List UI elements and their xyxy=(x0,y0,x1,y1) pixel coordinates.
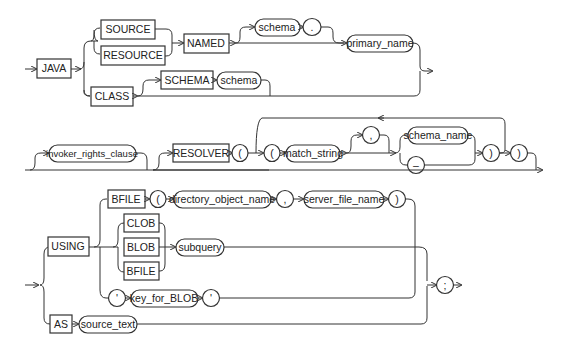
symbol-dash-label: – xyxy=(413,159,419,171)
symbol-lparen-inner-label: ( xyxy=(270,147,274,159)
row-2: invoker_rights_clause RESOLVER ( ( match… xyxy=(25,118,542,174)
symbol-rparen-bfile-label: ) xyxy=(395,193,399,205)
keyword-clob-label: CLOB xyxy=(127,217,156,229)
keyword-source-label: SOURCE xyxy=(106,23,151,35)
symbol-lparen-outer-label: ( xyxy=(238,147,242,159)
symbol-semicolon-label: ; xyxy=(444,279,447,291)
keyword-class-label: CLASS xyxy=(95,90,129,102)
symbol-dot-label: . xyxy=(311,21,314,33)
railroad-diagram: JAVA SOURCE RESOURCE NAMED schema . xyxy=(0,0,571,353)
symbol-rparen-inner-label: ) xyxy=(489,147,493,159)
nonterminal-match-string-label: match_string xyxy=(283,147,343,159)
nonterminal-schema-label: schema xyxy=(259,21,296,33)
nonterminal-schema-name-label: schema_name xyxy=(404,129,473,141)
nonterminal-key-for-blob-label: key_for_BLOB xyxy=(130,292,198,304)
nonterminal-directory-object-name-label: directory_object_name xyxy=(169,193,275,205)
nonterminal-schema-class-label: schema xyxy=(221,74,258,86)
keyword-named-label: NAMED xyxy=(187,37,225,49)
keyword-resolver-label: RESOLVER xyxy=(173,147,230,159)
keyword-bfile-label: BFILE xyxy=(111,193,140,205)
keyword-using-label: USING xyxy=(51,240,84,252)
symbol-comma-bfile-label: , xyxy=(284,193,287,205)
keyword-as-label: AS xyxy=(54,318,68,330)
nonterminal-subquery-label: subquery xyxy=(178,241,222,253)
keyword-bfile-lob-label: BFILE xyxy=(126,265,155,277)
keyword-resource-label: RESOURCE xyxy=(103,49,163,61)
symbol-comma-resolver-label: , xyxy=(370,129,373,141)
symbol-quote-close-label: ' xyxy=(210,292,212,304)
symbol-quote-open-label: ' xyxy=(116,292,118,304)
symbol-rparen-outer-label: ) xyxy=(517,147,521,159)
keyword-schema-label: SCHEMA xyxy=(165,74,210,86)
row-3: USING BFILE ( directory_object_name , se… xyxy=(25,190,461,333)
nonterminal-invoker-rights-clause-label: invoker_rights_clause xyxy=(46,148,138,159)
keyword-blob-label: BLOB xyxy=(127,241,155,253)
nonterminal-server-file-name-label: server_file_name xyxy=(304,193,385,205)
symbol-lparen-bfile-label: ( xyxy=(156,193,160,205)
nonterminal-source-text-label: source_text xyxy=(81,318,135,330)
nonterminal-primary-name-label: primary_name xyxy=(346,37,413,49)
keyword-java-label: JAVA xyxy=(42,62,67,74)
row-1: JAVA SOURCE RESOURCE NAMED schema . xyxy=(25,19,432,107)
